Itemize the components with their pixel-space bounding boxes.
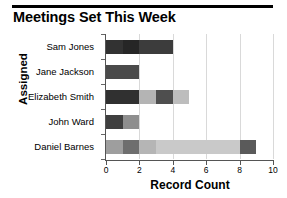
chart-container: Meetings Set This Week Assigned Record C… <box>0 0 287 198</box>
x-tick-label: 8 <box>228 165 252 175</box>
y-tick-label: Sam Jones <box>0 41 100 52</box>
bar[interactable] <box>106 140 273 154</box>
x-tick-label: 2 <box>127 165 151 175</box>
bar-segment[interactable] <box>240 140 257 154</box>
y-tick-label: Daniel Barnes <box>0 141 100 152</box>
x-tick-label: 4 <box>161 165 185 175</box>
bar-segment[interactable] <box>106 90 139 104</box>
y-tick <box>101 134 105 135</box>
y-axis-title: Assigned <box>17 44 29 114</box>
bar-segment[interactable] <box>123 40 140 54</box>
x-tick-label: 10 <box>261 165 285 175</box>
bar-segment[interactable] <box>156 90 173 104</box>
bar-segment[interactable] <box>123 140 140 154</box>
chart-title: Meetings Set This Week <box>13 9 176 25</box>
x-axis-title: Record Count <box>106 178 274 192</box>
y-tick-label: Elizabeth Smith <box>0 91 100 102</box>
y-tick <box>101 109 105 110</box>
y-tick-label: John Ward <box>0 116 100 127</box>
bar-segment[interactable] <box>106 65 139 79</box>
title-divider <box>12 5 273 8</box>
x-tick-label: 0 <box>94 165 118 175</box>
bar-segment[interactable] <box>106 140 123 154</box>
y-tick <box>101 34 105 35</box>
gridline <box>273 34 274 159</box>
bar[interactable] <box>106 40 273 54</box>
bar-segment[interactable] <box>139 40 172 54</box>
bar-segment[interactable] <box>139 140 156 154</box>
bar-segment[interactable] <box>173 90 190 104</box>
x-tick-label: 6 <box>194 165 218 175</box>
y-tick <box>101 159 105 160</box>
bar-segment[interactable] <box>123 115 140 129</box>
bar-segment[interactable] <box>156 140 240 154</box>
bar-segment[interactable] <box>106 40 123 54</box>
plot-area <box>106 34 273 159</box>
y-tick <box>101 59 105 60</box>
bar[interactable] <box>106 115 273 129</box>
bar[interactable] <box>106 90 273 104</box>
x-axis-line <box>105 160 274 161</box>
y-tick-label: Jane Jackson <box>0 66 100 77</box>
bar-segment[interactable] <box>139 90 156 104</box>
bar-segment[interactable] <box>106 115 123 129</box>
bar[interactable] <box>106 65 273 79</box>
y-tick <box>101 84 105 85</box>
